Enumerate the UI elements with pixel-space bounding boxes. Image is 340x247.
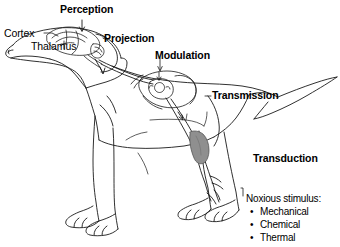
pain-pathway-diagram: Perception Cortex Thalamus Projection Mo… — [0, 0, 340, 247]
noxious-stimulus-heading: Noxious stimulus: — [246, 192, 321, 205]
label-perception: Perception — [60, 4, 113, 15]
spinal-cord-cross-section — [131, 71, 196, 109]
hind-leg-nerve-shading — [190, 131, 209, 164]
label-leader-lines — [158, 58, 243, 196]
label-transduction: Transduction — [253, 153, 318, 164]
label-thalamus: Thalamus — [31, 41, 76, 52]
noxious-stimulus-list: • Mechanical • Chemical • Thermal — [246, 205, 321, 244]
list-item-label: Thermal — [260, 232, 295, 243]
cortex-leader-line — [44, 33, 58, 36]
label-modulation: Modulation — [155, 50, 210, 61]
bullet-icon: • — [250, 218, 253, 231]
label-projection: Projection — [104, 33, 154, 44]
noxious-stimulus-block: Noxious stimulus: • Mechanical • Chemica… — [246, 192, 321, 244]
dog-front-legs — [66, 96, 118, 236]
list-item-label: Mechanical — [260, 206, 309, 217]
label-cortex: Cortex — [4, 28, 34, 39]
list-item: • Thermal — [260, 231, 321, 244]
list-item: • Mechanical — [260, 205, 321, 218]
label-transmission: Transmission — [212, 90, 279, 101]
bullet-icon: • — [250, 231, 253, 244]
bullet-icon: • — [250, 205, 253, 218]
perception-arrow — [80, 20, 85, 32]
list-item-label: Chemical — [260, 219, 300, 230]
list-item: • Chemical — [260, 218, 321, 231]
